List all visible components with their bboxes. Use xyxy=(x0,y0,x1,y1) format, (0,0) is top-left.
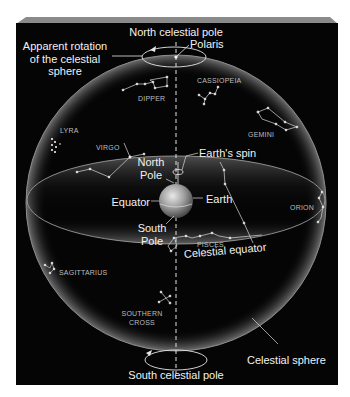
label-dipper: DIPPER xyxy=(138,94,165,103)
label-earth: Earth xyxy=(206,193,232,206)
panel-bevel xyxy=(16,17,338,24)
label-equator: Equator xyxy=(111,196,150,209)
label-north-celestial-pole: North celestial pole xyxy=(129,26,223,39)
label-cassiopeia: CASSIOPEIA xyxy=(197,76,241,85)
label-gemini: GEMINI xyxy=(248,130,274,139)
label-south-pole: South Pole xyxy=(138,222,167,247)
label-apparent-rotation: Apparent rotation of the celestial spher… xyxy=(23,40,107,78)
label-earths-spin: Earth's spin xyxy=(199,147,256,160)
label-south-celestial-pole: South celestial pole xyxy=(128,369,223,382)
label-virgo: VIRGO xyxy=(96,143,120,152)
celestial-sphere-diagram: North celestial pole Polaris Apparent ro… xyxy=(0,0,350,397)
earth-globe xyxy=(159,184,193,218)
label-celestial-sphere: Celestial sphere xyxy=(247,354,326,367)
label-sagittarius: SAGITTARIUS xyxy=(59,268,107,277)
label-north-pole: North Pole xyxy=(138,156,165,181)
label-lyra: LYRA xyxy=(60,126,79,135)
label-polaris: Polaris xyxy=(190,38,224,51)
label-southern-cross: SOUTHERN CROSS xyxy=(122,309,163,327)
label-orion: ORION xyxy=(290,203,314,212)
